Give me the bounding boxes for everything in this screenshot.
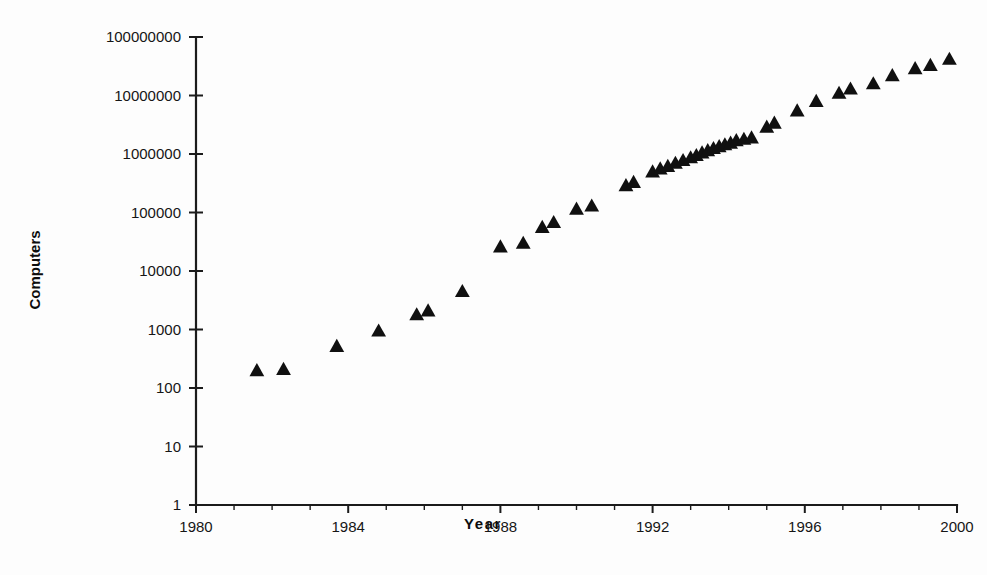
data-point-marker [942, 52, 957, 65]
data-point-marker [885, 68, 900, 81]
data-point-marker [626, 175, 641, 188]
y-axis-title: Computers [26, 230, 43, 309]
y-tick-label: 100 [156, 379, 181, 396]
x-axis-ticks [196, 505, 957, 513]
data-point-marker [843, 81, 858, 94]
y-tick-label: 100000000 [106, 28, 181, 45]
data-point-marker [546, 215, 561, 228]
x-tick-label: 1992 [636, 518, 669, 535]
data-point-marker [409, 307, 424, 320]
data-point-series [249, 52, 956, 377]
y-axis-tick-labels: 1101001000100001000001000000100000001000… [106, 28, 181, 513]
data-point-marker [584, 198, 599, 211]
x-axis: 198019841988199219962000 [179, 505, 973, 535]
y-tick-label: 1 [173, 496, 181, 513]
y-tick-label: 10000 [139, 262, 181, 279]
y-axis: 1101001000100001000001000000100000001000… [106, 28, 203, 513]
x-tick-label: 1980 [179, 518, 212, 535]
data-point-marker [493, 239, 508, 252]
data-point-marker [455, 284, 470, 297]
data-point-marker [329, 339, 344, 352]
x-axis-title: Year [464, 515, 502, 532]
data-point-marker [569, 202, 584, 215]
y-tick-label: 100000 [131, 204, 181, 221]
data-point-marker [866, 76, 881, 89]
y-tick-label: 10 [164, 438, 181, 455]
data-point-marker [767, 116, 782, 129]
chart-canvas: 1101001000100001000001000000100000001000… [0, 0, 987, 575]
data-point-marker [832, 86, 847, 99]
data-point-marker [923, 58, 938, 71]
x-tick-label: 2000 [940, 518, 973, 535]
y-tick-label: 1000 [148, 321, 181, 338]
data-point-marker [908, 61, 923, 74]
data-point-marker [790, 103, 805, 116]
data-point-marker [421, 303, 436, 316]
x-tick-label: 1996 [788, 518, 821, 535]
x-tick-label: 1984 [332, 518, 365, 535]
data-point-marker [516, 236, 531, 249]
y-tick-label: 1000000 [123, 145, 181, 162]
data-point-marker [249, 363, 264, 376]
x-axis-tick-labels: 198019841988199219962000 [179, 518, 973, 535]
data-point-marker [809, 94, 824, 107]
data-point-marker [371, 323, 386, 336]
y-tick-label: 10000000 [114, 87, 181, 104]
data-point-marker [276, 362, 291, 375]
computers-vs-year-chart: 1101001000100001000001000000100000001000… [0, 0, 987, 575]
